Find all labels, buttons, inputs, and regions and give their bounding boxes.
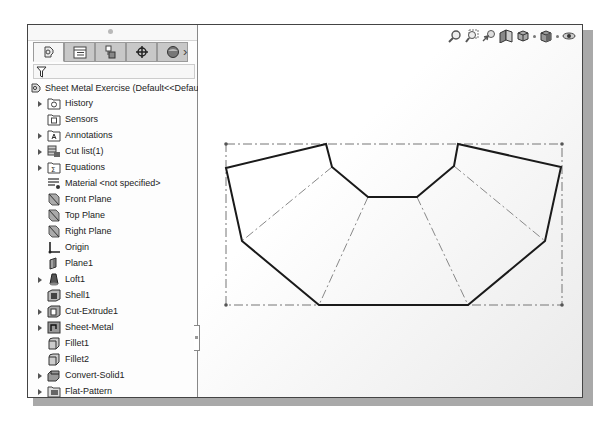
tree-item-label: Cut list(1) [65,146,104,156]
part-icon [30,82,42,94]
expand-arrow-icon[interactable] [38,165,42,171]
panel-grip[interactable] [28,25,197,41]
configuration-icon [105,45,117,59]
property-manager-tab[interactable] [64,42,95,62]
tree-item-label: Equations [65,162,105,172]
tree-item-convert-solid1[interactable]: Convert-Solid1 [28,368,197,384]
history-folder-icon [47,97,61,110]
tree-item-label: Material <not specified> [65,178,161,188]
plane-icon [47,209,61,222]
sensors-folder-icon [47,113,61,126]
more-tabs-chevron-icon[interactable]: › [183,44,187,59]
feature-manager-tab[interactable] [33,42,64,62]
equations-folder-icon: Σ [47,161,61,174]
tree-item-fillet1[interactable]: Fillet1 [28,336,197,352]
tree-item-front-plane[interactable]: Front Plane [28,192,197,208]
tree-item-cut-extrude1[interactable]: Cut-Extrude1 [28,304,197,320]
material-icon [47,177,61,190]
origin-icon [47,241,61,254]
tree-item-label: Sheet-Metal [65,322,114,332]
expand-arrow-icon[interactable] [38,389,42,395]
loft-icon [47,273,61,286]
expand-arrow-icon[interactable] [38,101,42,107]
filter-bar[interactable] [33,64,195,79]
tree-item-cut-list[interactable]: Cut list(1) [28,144,197,160]
tree-item-label: Front Plane [65,194,112,204]
shell-icon [47,289,61,302]
tree-item-label: Convert-Solid1 [65,370,125,380]
svg-text:Σ: Σ [51,166,55,174]
manager-tabs: › [28,41,197,63]
convert-solid-icon [47,369,61,382]
expand-arrow-icon[interactable] [38,133,42,139]
tree-item-label: Origin [65,242,89,252]
fillet-icon [47,353,61,366]
tree-item-label: Fillet2 [65,354,89,364]
dimxpert-manager-tab[interactable] [126,42,157,62]
tree-item-label: Flat-Pattern [65,386,112,396]
tree-item-label: Shell1 [65,290,90,300]
tree-item-right-plane[interactable]: Right Plane [28,224,197,240]
appearance-sphere-icon [166,45,180,59]
tree-item-label: Right Plane [65,226,112,236]
tree-item-label: Plane1 [65,258,93,268]
sheet-metal-icon [47,321,61,334]
tree-item-history[interactable]: History [28,96,197,112]
cut-list-icon [47,145,61,158]
expand-arrow-icon[interactable] [38,373,42,379]
tree-item-annotations[interactable]: Annotations [28,128,197,144]
expand-arrow-icon[interactable] [38,325,42,331]
cut-extrude-icon [47,305,61,318]
tree-item-top-plane[interactable]: Top Plane [28,208,197,224]
tree-item-flat-pattern[interactable]: Flat-Pattern [28,384,197,398]
configuration-manager-tab[interactable] [95,42,126,62]
tree-item-label: Fillet1 [65,338,89,348]
tree-item-label: History [65,98,93,108]
grip-dot [108,29,113,34]
tree-item-shell1[interactable]: Shell1 [28,288,197,304]
tree-item-label: Annotations [65,130,113,140]
expand-arrow-icon[interactable] [38,309,42,315]
tree-item-equations[interactable]: Σ Equations [28,160,197,176]
tree-item-fillet2[interactable]: Fillet2 [28,352,197,368]
tree-item-plane1[interactable]: Plane1 [28,256,197,272]
annotations-folder-icon [47,129,61,142]
fillet-icon [47,337,61,350]
flat-pattern-drawing [198,25,582,397]
tree-item-label: Cut-Extrude1 [65,306,118,316]
tree-item-label: Loft1 [65,274,85,284]
part-root-label: Sheet Metal Exercise (Default<<Default [45,83,203,93]
tree-item-loft1[interactable]: Loft1 [28,272,197,288]
flat-pattern-icon [47,385,61,398]
plane-feature-icon [47,257,61,270]
bounding-box [226,144,562,305]
flat-pattern-outline[interactable] [226,144,561,305]
solidworks-window: › Sheet Metal Exercise (Default<<Default… [27,24,583,398]
expand-arrow-icon[interactable] [38,277,42,283]
tree-item-label: Top Plane [65,210,105,220]
bend-lines [242,166,545,305]
plane-icon [47,193,61,206]
property-list-icon [73,46,87,59]
plane-icon [47,225,61,238]
tree-item-origin[interactable]: Origin [28,240,197,256]
filter-funnel-icon [36,66,47,78]
tree-item-label: Sensors [65,114,98,124]
splitter-dot [195,336,198,339]
graphics-area[interactable] [198,25,582,397]
crosshair-target-icon [135,45,149,59]
tree-item-material[interactable]: Material <not specified> [28,176,197,192]
tree-item-sensors[interactable]: Sensors [28,112,197,128]
expand-arrow-icon[interactable] [38,149,42,155]
feature-manager-panel: › Sheet Metal Exercise (Default<<Default… [28,25,198,397]
panel-splitter-handle[interactable] [194,325,200,351]
feature-tree-icon [42,45,56,59]
tree-item-sheet-metal[interactable]: Sheet-Metal [28,320,197,336]
part-root[interactable]: Sheet Metal Exercise (Default<<Default [30,80,203,96]
